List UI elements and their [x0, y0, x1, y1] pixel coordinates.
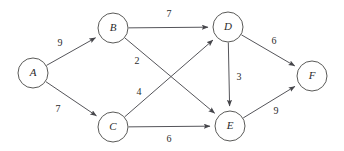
node-c: C — [98, 112, 128, 142]
edge-b-to-d — [128, 27, 208, 28]
edge-weight-a-c: 7 — [56, 103, 61, 114]
edge-a-to-c — [46, 82, 97, 116]
graph-diagram: 977246369 ABCDEF — [0, 0, 344, 151]
edges-layer — [46, 27, 295, 127]
node-d: D — [213, 12, 243, 42]
node-label-e: E — [226, 119, 234, 131]
node-a: A — [18, 58, 48, 88]
edge-d-to-f — [241, 35, 294, 66]
edge-c-to-e — [128, 126, 210, 127]
edge-b-to-e — [125, 38, 215, 113]
edge-weight-b-e: 2 — [135, 55, 140, 66]
nodes-layer: ABCDEF — [18, 12, 327, 142]
node-label-f: F — [308, 69, 316, 81]
node-label-b: B — [110, 21, 117, 33]
edge-a-to-b — [47, 38, 96, 66]
edge-weight-a-b: 9 — [58, 37, 63, 48]
edge-weight-d-f: 6 — [272, 35, 277, 46]
edge-weight-e-f: 9 — [274, 105, 279, 116]
edge-weight-d-e: 3 — [237, 71, 242, 82]
edge-weight-b-d: 7 — [167, 8, 172, 19]
node-label-d: D — [223, 20, 232, 32]
edge-e-to-f — [243, 86, 295, 118]
edge-weight-c-e: 6 — [167, 133, 172, 144]
edge-c-to-d — [125, 40, 213, 117]
node-e: E — [215, 111, 245, 141]
node-f: F — [297, 61, 327, 91]
node-label-a: A — [29, 66, 37, 78]
edge-d-to-e — [228, 42, 229, 106]
graph-canvas: 977246369 ABCDEF — [0, 0, 344, 151]
node-label-c: C — [109, 120, 117, 132]
edge-weight-c-d: 4 — [137, 86, 142, 97]
node-b: B — [98, 13, 128, 43]
